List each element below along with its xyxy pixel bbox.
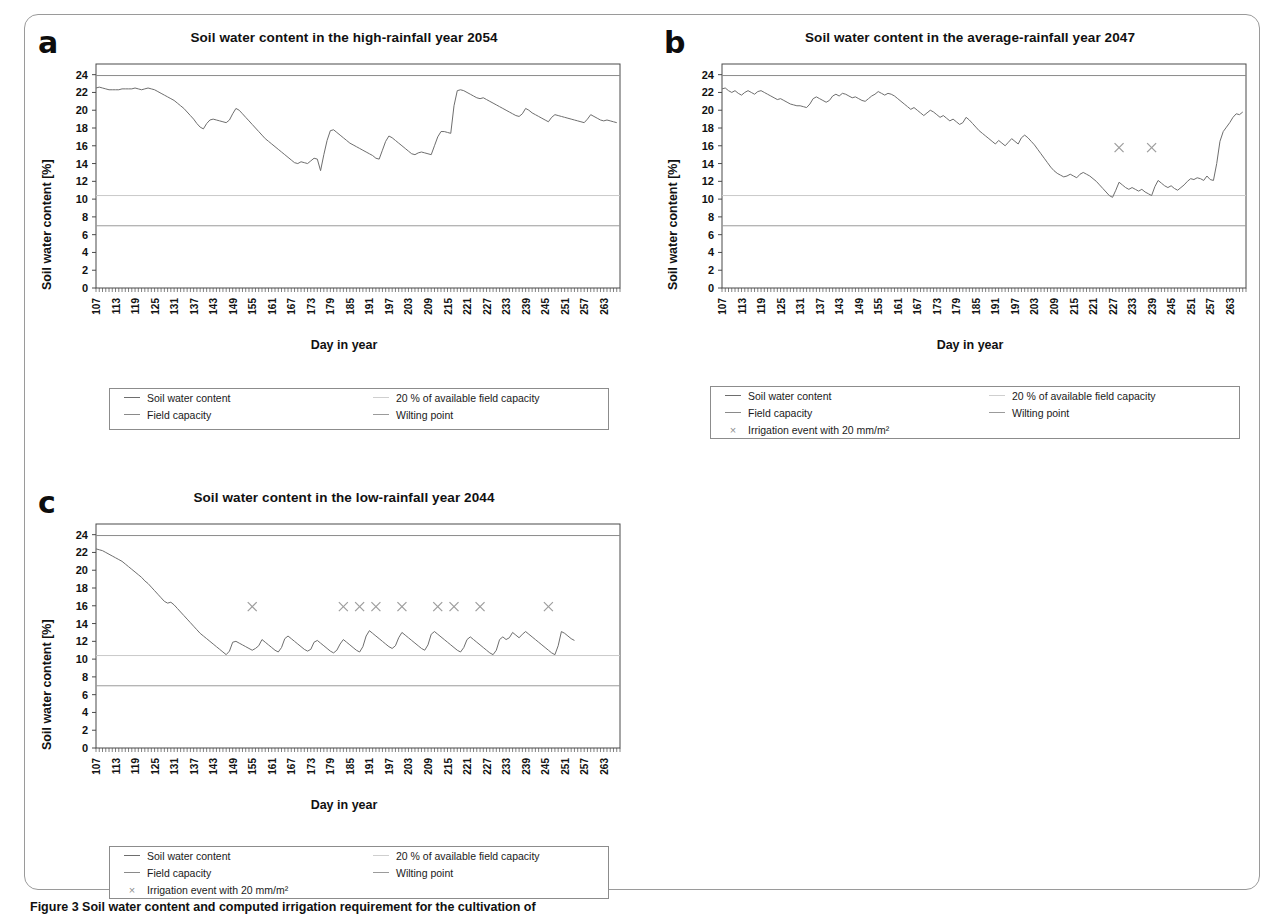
legend-item-available-field-capacity: 20 % of available field capacity xyxy=(359,850,608,862)
svg-text:197: 197 xyxy=(1010,298,1021,315)
svg-text:14: 14 xyxy=(702,158,715,170)
svg-text:191: 191 xyxy=(364,298,375,315)
svg-text:191: 191 xyxy=(990,298,1001,315)
field-capacity-line-icon xyxy=(124,410,140,420)
wilting-point-line-icon xyxy=(989,408,1005,418)
svg-text:137: 137 xyxy=(189,758,200,775)
svg-text:185: 185 xyxy=(345,758,356,775)
svg-text:113: 113 xyxy=(111,758,122,775)
svg-text:12: 12 xyxy=(702,175,714,187)
svg-text:0: 0 xyxy=(82,282,88,294)
svg-text:215: 215 xyxy=(1069,298,1080,315)
svg-text:179: 179 xyxy=(325,298,336,315)
svg-text:137: 137 xyxy=(189,298,200,315)
available-field-capacity-line-icon xyxy=(989,391,1005,401)
svg-text:8: 8 xyxy=(82,671,88,683)
svg-text:131: 131 xyxy=(169,758,180,775)
svg-text:209: 209 xyxy=(423,758,434,775)
svg-text:22: 22 xyxy=(76,86,88,98)
svg-text:125: 125 xyxy=(776,298,787,315)
svg-text:263: 263 xyxy=(599,758,610,775)
svg-text:14: 14 xyxy=(76,618,89,630)
svg-text:6: 6 xyxy=(708,229,714,241)
svg-text:185: 185 xyxy=(971,298,982,315)
svg-text:203: 203 xyxy=(1029,298,1040,315)
svg-text:22: 22 xyxy=(76,546,88,558)
svg-text:113: 113 xyxy=(111,298,122,315)
svg-text:203: 203 xyxy=(403,758,414,775)
available-field-capacity-line-icon xyxy=(373,393,389,403)
panel-b: b Soil water content in the average-rain… xyxy=(650,20,1270,460)
svg-text:191: 191 xyxy=(364,758,375,775)
svg-text:22: 22 xyxy=(702,86,714,98)
svg-text:2: 2 xyxy=(82,264,88,276)
legend-label: Field capacity xyxy=(147,409,211,421)
svg-text:0: 0 xyxy=(82,742,88,754)
legend-label: Wilting point xyxy=(1012,407,1069,419)
legend-item-field-capacity: Field capacity xyxy=(711,407,975,419)
svg-text:24: 24 xyxy=(76,529,89,541)
legend-item-wilting-point: Wilting point xyxy=(975,407,1239,419)
legend-label: Field capacity xyxy=(147,867,211,879)
svg-text:6: 6 xyxy=(82,229,88,241)
soil-water-content-line-icon xyxy=(124,851,140,861)
legend-label: 20 % of available field capacity xyxy=(396,392,540,404)
available-field-capacity-line-icon xyxy=(373,851,389,861)
svg-text:161: 161 xyxy=(893,298,904,315)
svg-text:20: 20 xyxy=(76,564,88,576)
svg-text:161: 161 xyxy=(267,298,278,315)
svg-text:251: 251 xyxy=(1186,298,1197,315)
figure-caption-bold: Figure 3 Soil water content and computed… xyxy=(30,900,536,914)
svg-text:263: 263 xyxy=(1225,298,1236,315)
wilting-point-line-icon xyxy=(373,410,389,420)
svg-text:203: 203 xyxy=(403,298,414,315)
wilting-point-line-icon xyxy=(373,868,389,878)
svg-text:161: 161 xyxy=(267,758,278,775)
svg-text:155: 155 xyxy=(247,758,258,775)
svg-text:215: 215 xyxy=(443,298,454,315)
svg-text:173: 173 xyxy=(306,758,317,775)
panel-b-plot: 0246810121416182022241071131191251311371… xyxy=(650,20,1270,360)
svg-text:10: 10 xyxy=(76,653,88,665)
soil-water-content-line-icon xyxy=(124,393,140,403)
svg-text:2: 2 xyxy=(82,724,88,736)
svg-text:251: 251 xyxy=(560,758,571,775)
panel-a-legend: Soil water content 20 % of available fie… xyxy=(109,388,609,430)
svg-text:107: 107 xyxy=(91,758,102,775)
svg-text:245: 245 xyxy=(540,758,551,775)
svg-text:227: 227 xyxy=(482,758,493,775)
svg-text:24: 24 xyxy=(702,69,715,81)
svg-text:4: 4 xyxy=(82,246,89,258)
svg-text:257: 257 xyxy=(1205,298,1216,315)
legend-label: Wilting point xyxy=(396,867,453,879)
svg-text:16: 16 xyxy=(76,600,88,612)
legend-label: Soil water content xyxy=(147,392,230,404)
svg-text:8: 8 xyxy=(82,211,88,223)
svg-text:221: 221 xyxy=(1088,298,1099,315)
svg-text:245: 245 xyxy=(540,298,551,315)
svg-text:12: 12 xyxy=(76,175,88,187)
svg-text:125: 125 xyxy=(150,298,161,315)
svg-text:221: 221 xyxy=(462,758,473,775)
svg-text:263: 263 xyxy=(599,298,610,315)
svg-text:12: 12 xyxy=(76,635,88,647)
soil-water-content-line-icon xyxy=(725,391,741,401)
svg-text:185: 185 xyxy=(345,298,356,315)
field-capacity-line-icon xyxy=(124,868,140,878)
panel-a-plot: 0246810121416182022241071131191251311371… xyxy=(24,20,644,360)
panel-b-legend: Soil water content 20 % of available fie… xyxy=(710,386,1240,439)
svg-text:143: 143 xyxy=(834,298,845,315)
legend-item-wilting-point: Wilting point xyxy=(359,409,608,421)
svg-text:227: 227 xyxy=(482,298,493,315)
svg-text:155: 155 xyxy=(247,298,258,315)
svg-text:215: 215 xyxy=(443,758,454,775)
svg-text:113: 113 xyxy=(737,298,748,315)
irrigation-cross-icon: × xyxy=(124,885,140,895)
legend-item-available-field-capacity: 20 % of available field capacity xyxy=(975,390,1239,402)
svg-text:257: 257 xyxy=(579,758,590,775)
svg-text:221: 221 xyxy=(462,298,473,315)
svg-text:155: 155 xyxy=(873,298,884,315)
legend-item-irrigation-event: × Irrigation event with 20 mm/m² xyxy=(110,884,359,896)
svg-text:119: 119 xyxy=(130,758,141,775)
svg-text:107: 107 xyxy=(717,298,728,315)
